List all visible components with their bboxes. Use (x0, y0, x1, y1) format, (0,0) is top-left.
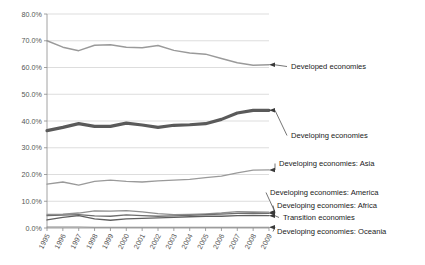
x-axis-tick-label: 2004 (179, 232, 194, 250)
leader-line (275, 65, 287, 67)
x-axis-tick-label: 2002 (148, 232, 163, 250)
series-line-developing-economies-america (47, 211, 269, 215)
line-chart: 80.0%70.0%60.0%50.0%40.0%30.0%20.0%10.0%… (0, 0, 425, 265)
y-axis-tick-label: 60.0% (22, 63, 43, 72)
x-axis-tick-label: 2005 (195, 232, 210, 250)
x-axis-tick-label: 2006 (211, 232, 226, 250)
series-line-developing-economies-asia (47, 170, 269, 185)
x-axis-tick-label: 1998 (84, 232, 99, 250)
y-axis-tick-label: 0.0% (26, 224, 43, 233)
series-line-developed-economies (47, 41, 269, 66)
x-axis-tick-label: 2003 (163, 232, 178, 250)
leader-arrowhead (269, 108, 275, 112)
y-axis-tick-label: 40.0% (22, 117, 43, 126)
x-axis-tick-label: 1999 (100, 232, 115, 250)
y-axis-tick-label: 20.0% (22, 170, 43, 179)
y-axis-tick-label: 30.0% (22, 143, 43, 152)
leader-line (275, 110, 287, 135)
y-axis-tick-label: 50.0% (22, 90, 43, 99)
y-axis-tick-label: 70.0% (22, 36, 43, 45)
series-annotation-label: Developing economies (291, 131, 368, 140)
x-axis-tick-label: 2007 (227, 232, 242, 250)
x-axis-tick-label: 1997 (68, 232, 83, 250)
series-annotation-label: Developing economies: Oceania (277, 227, 387, 236)
chart-container: 80.0%70.0%60.0%50.0%40.0%30.0%20.0%10.0%… (0, 0, 425, 265)
series-annotation-label: Developing economies: Africa (277, 201, 378, 210)
y-axis-tick-label: 80.0% (22, 10, 43, 19)
leader-arrowhead (269, 63, 275, 67)
series-line-developing-economies (47, 110, 269, 130)
x-axis-tick-label: 1996 (52, 232, 67, 250)
leader-line (275, 216, 279, 218)
series-annotation-label: Developing economies: Asia (279, 159, 375, 168)
x-axis-tick-label: 2009 (259, 232, 274, 250)
series-annotation-label: Developed economies (291, 62, 366, 71)
x-axis-tick-label: 2008 (243, 232, 258, 250)
x-axis-tick-label: 1995 (37, 232, 52, 250)
series-annotation-label: Developing economies: America (270, 188, 379, 197)
series-annotation-label: Transition economies (283, 213, 355, 222)
y-axis-tick-label: 10.0% (22, 197, 43, 206)
x-axis-tick-label: 2000 (116, 232, 131, 250)
leader-arrowhead (269, 168, 275, 172)
x-axis-tick-label: 2001 (132, 232, 147, 250)
leader-arrowhead (269, 225, 275, 229)
